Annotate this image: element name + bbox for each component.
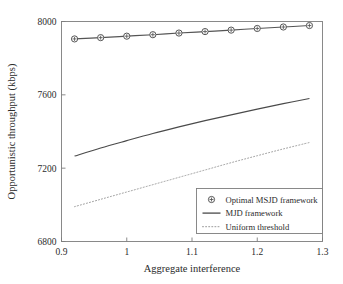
x-tick-label: 1.2 [251,247,263,257]
y-tick-label: 6800 [38,237,57,247]
legend-label: Uniform threshold [226,222,290,232]
series-1 [71,22,312,42]
x-tick-label: 1 [124,247,129,257]
y-axis-title: Opportunistic throughput (kbps) [6,63,18,199]
chart-legend: Optimal MSJD frameworkMJD frameworkUnifo… [197,189,323,234]
x-axis-title: Aggregate interference [144,263,241,274]
legend-label: Optimal MSJD framework [226,195,319,205]
x-tick-label: 1.3 [317,247,329,257]
y-tick-label: 7600 [38,90,57,100]
legend-item[interactable]: Optimal MSJD framework [208,195,318,205]
chart-figure: 0.911.11.21.36800720076008000Aggregate i… [0,0,343,284]
chart-canvas: 0.911.11.21.36800720076008000Aggregate i… [0,0,343,284]
series-2 [75,99,310,157]
series-line [75,26,310,39]
x-tick-label: 0.9 [56,247,68,257]
y-tick-label: 8000 [38,17,57,27]
series-line [75,99,310,157]
legend-label: MJD framework [226,208,284,218]
y-tick-label: 7200 [38,164,57,174]
x-tick-label: 1.1 [186,247,198,257]
